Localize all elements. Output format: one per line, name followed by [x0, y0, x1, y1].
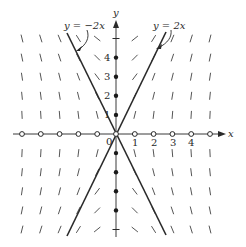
- slope-segment: [191, 169, 192, 176]
- slope-segment: [171, 54, 173, 61]
- filled-dot-marker: [114, 208, 118, 212]
- slope-segment: [190, 35, 192, 42]
- slope-segment: [190, 54, 192, 61]
- filled-dot-marker: [114, 113, 118, 117]
- slope-segment: [172, 73, 174, 80]
- slope-segment: [21, 35, 23, 42]
- slope-segment: [191, 188, 192, 195]
- y-tick-label-2: 2: [104, 90, 110, 101]
- slope-segment: [153, 150, 154, 157]
- slope-segment: [152, 188, 155, 195]
- filled-dot-marker: [114, 94, 118, 98]
- slope-segment: [209, 188, 210, 195]
- slope-segment: [76, 35, 80, 41]
- open-circle-marker: [95, 132, 100, 137]
- slope-segment: [153, 111, 154, 118]
- slope-segment: [209, 207, 210, 214]
- slope-field-diagram: x y 0 1 2 3 4 4 3 2 1 y = −2x y = 2x: [0, 0, 246, 247]
- filled-dot-marker: [114, 189, 118, 193]
- open-circle-marker: [170, 132, 175, 137]
- slope-segment: [153, 169, 155, 176]
- slope-segment: [152, 226, 156, 232]
- slope-segment: [95, 74, 99, 80]
- filled-dot-marker: [114, 75, 118, 79]
- open-circle-marker: [114, 132, 119, 137]
- slope-segment: [190, 207, 192, 214]
- slope-segment: [21, 73, 22, 80]
- slope-segment: [40, 73, 41, 80]
- slope-segment: [21, 54, 22, 61]
- filled-dot-marker: [114, 170, 118, 174]
- slope-segment: [58, 54, 60, 61]
- slope-segment: [209, 35, 211, 42]
- slope-segment: [77, 188, 80, 195]
- slope-segment: [94, 36, 100, 40]
- open-circle-marker: [57, 132, 62, 137]
- y-tick-label-4: 4: [104, 52, 110, 63]
- slope-segment: [58, 207, 60, 214]
- slope-segment: [96, 111, 98, 118]
- open-circle-marker: [151, 132, 156, 137]
- slope-segment: [96, 150, 98, 157]
- slope-segment: [210, 92, 211, 99]
- slope-segment: [76, 226, 80, 232]
- filled-dot-marker: [114, 151, 118, 155]
- filled-dot-marker: [114, 55, 118, 59]
- open-circle-marker: [189, 132, 194, 137]
- slope-segment: [153, 92, 155, 99]
- x-axis-label: x: [228, 128, 234, 139]
- leader-arrow-neg-2x-icon: [76, 46, 82, 51]
- slope-segment: [95, 188, 99, 194]
- label-y-equals-neg-2x: y = −2x: [63, 20, 105, 31]
- slope-segment: [58, 35, 61, 42]
- open-circle-marker: [38, 132, 43, 137]
- x-tick-label-3: 3: [170, 137, 176, 148]
- slope-segment: [59, 73, 61, 80]
- slope-segment: [190, 226, 192, 233]
- x-tick-label-2: 2: [151, 137, 157, 148]
- slope-segment: [59, 169, 60, 176]
- x-tick-label-1: 1: [132, 137, 138, 148]
- slope-segment: [172, 150, 173, 157]
- slope-segment: [78, 92, 80, 99]
- slope-segment: [191, 73, 192, 80]
- slope-segment: [95, 208, 100, 213]
- y-tick-label-3: 3: [104, 71, 110, 82]
- slope-segment: [40, 226, 42, 233]
- y-axis-label: y: [112, 7, 119, 18]
- x-axis-arrow-icon: [218, 131, 226, 137]
- slope-segment: [40, 35, 42, 42]
- slope-segment: [40, 188, 41, 195]
- open-circle-marker: [76, 132, 81, 137]
- slope-segment: [132, 36, 138, 40]
- slope-segment: [172, 111, 173, 118]
- slope-segment: [40, 92, 41, 99]
- slope-segment: [134, 150, 136, 157]
- slope-segment: [133, 74, 137, 80]
- slope-segment: [133, 188, 137, 194]
- slope-segment: [22, 92, 23, 99]
- slope-segment: [132, 208, 137, 213]
- slope-segment: [132, 55, 137, 60]
- slope-segment: [78, 169, 80, 176]
- origin-label: 0: [106, 136, 112, 147]
- slope-segment: [59, 150, 60, 157]
- y-axis-arrow-icon: [113, 20, 119, 28]
- slope-segment: [209, 54, 210, 61]
- slope-segment: [134, 111, 136, 118]
- slope-segment: [209, 73, 210, 80]
- slope-segment: [172, 188, 174, 195]
- slope-segment: [22, 169, 23, 176]
- open-circle-marker: [20, 132, 25, 137]
- slope-segment: [21, 207, 22, 214]
- slope-segment: [58, 226, 61, 233]
- slope-segment: [77, 73, 80, 80]
- slope-segment: [172, 92, 173, 99]
- open-circle-marker: [132, 132, 137, 137]
- slope-segment: [152, 73, 155, 80]
- open-circle-marker: [208, 132, 213, 137]
- label-y-equals-2x: y = 2x: [152, 20, 186, 31]
- slope-segment: [59, 111, 60, 118]
- slope-segment: [191, 92, 192, 99]
- slope-segment: [21, 226, 23, 233]
